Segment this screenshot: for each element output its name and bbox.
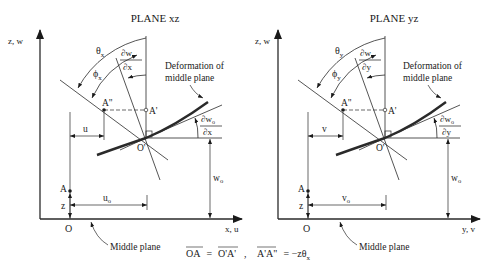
- panel-plane-yz: PLANE yz z, w y, v θy ϕy ∂wo ∂y ∂wo ∂y D…: [255, 12, 480, 252]
- svg-text:wo: wo: [213, 173, 223, 184]
- eq1-lhs: OA: [186, 248, 201, 259]
- svg-text:∂wo: ∂wo: [201, 114, 215, 125]
- phi-label: ϕy: [332, 68, 341, 82]
- point-a-double-prime: [341, 108, 345, 112]
- point-o-prime: O': [376, 143, 385, 153]
- point-o-prime: O': [137, 143, 146, 153]
- vertical-axis-label: z, w: [255, 36, 270, 46]
- z-dimension-label: z: [61, 201, 65, 211]
- slope-fraction-lower: ∂wo ∂x: [200, 114, 222, 137]
- vertical-axis-label: z, w: [8, 36, 23, 46]
- origin-label: O: [65, 223, 72, 234]
- slope-normal-line: [116, 58, 160, 180]
- slope-fraction-upper: ∂wo ∂y: [359, 48, 381, 72]
- theta-arc: [78, 38, 146, 88]
- svg-text:A": A": [102, 98, 113, 108]
- svg-text:A': A': [149, 106, 158, 116]
- eq2-lhs: A'A": [257, 248, 277, 259]
- deformation-label-line1: Deformation of: [165, 61, 225, 71]
- svg-text:z: z: [299, 201, 303, 211]
- eq-separator: ,: [244, 248, 247, 259]
- eq1-op: =: [204, 248, 215, 259]
- plate-deformation-diagram: PLANE xz z, w x, u θx ϕx ∂wo ∂x: [0, 0, 494, 271]
- point-a: [306, 189, 310, 193]
- horizontal-axis-label: y, v: [462, 224, 475, 234]
- deformation-label-line2: middle plane: [403, 73, 452, 83]
- slope-fraction-upper: ∂wo ∂x: [120, 48, 142, 72]
- point-a-prime: [383, 108, 387, 112]
- theta-label: θy: [335, 45, 344, 59]
- svg-text:∂x: ∂x: [203, 127, 212, 137]
- middle-plane-label: Middle plane: [110, 242, 160, 252]
- svg-text:vo: vo: [342, 193, 350, 204]
- svg-text:∂wo: ∂wo: [360, 48, 374, 59]
- point-a-prime: [144, 108, 148, 112]
- origin-label: O: [303, 223, 310, 234]
- horizontal-axis-label: x, u: [225, 224, 239, 234]
- svg-text:A: A: [60, 184, 67, 194]
- svg-text:A": A": [341, 98, 352, 108]
- eq1-rhs: O'A': [218, 248, 236, 259]
- tangent-arc: [195, 118, 198, 138]
- eq2-rhs: = −zθx: [281, 248, 311, 262]
- svg-text:∂y: ∂y: [442, 127, 451, 137]
- slope-arc: [128, 75, 146, 78]
- slope-fraction-lower: ∂wo ∂y: [439, 114, 461, 137]
- svg-text:∂x: ∂x: [123, 62, 132, 72]
- panel-title: PLANE yz: [370, 12, 419, 24]
- point-a-double-prime: [102, 108, 106, 112]
- deformation-label-line1: Deformation of: [403, 61, 463, 71]
- svg-text:u: u: [83, 124, 88, 134]
- svg-text:∂y: ∂y: [362, 62, 371, 72]
- svg-text:wo: wo: [451, 173, 461, 184]
- deformation-leader: [190, 85, 203, 98]
- point-a: [68, 189, 72, 193]
- theta-label: θx: [96, 45, 105, 59]
- svg-text:A': A': [388, 106, 397, 116]
- panel-title: PLANE xz: [131, 12, 180, 24]
- panel-plane-xz: PLANE xz z, w x, u θx ϕx ∂wo ∂x: [8, 12, 242, 252]
- middle-plane-label: Middle plane: [359, 242, 409, 252]
- svg-text:uo: uo: [103, 193, 111, 204]
- deformation-label-line2: middle plane: [165, 73, 214, 83]
- svg-text:∂wo: ∂wo: [440, 114, 454, 125]
- svg-text:∂wo: ∂wo: [121, 48, 135, 59]
- phi-label: ϕx: [93, 68, 102, 82]
- svg-text:A: A: [298, 184, 305, 194]
- svg-text:v: v: [322, 124, 327, 134]
- equations: OA = O'A' , A'A" = −zθx: [186, 247, 311, 262]
